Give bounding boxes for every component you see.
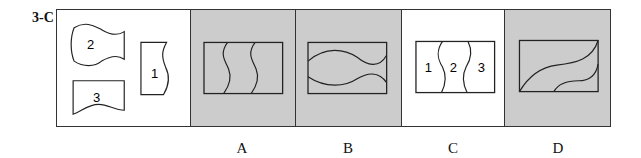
option-b-label: B [333,140,363,157]
pieces-panel: 2 3 1 [57,10,191,126]
option-b-drawing [296,10,401,126]
option-c-label: C [438,140,468,157]
option-a-panel[interactable] [191,10,297,126]
option-d-drawing [505,10,610,126]
option-d-panel[interactable] [505,10,610,126]
option-d-label: D [543,140,573,157]
puzzle-frame: 2 3 1 1 2 3 [56,9,611,127]
region-label-3: 3 [478,60,485,75]
piece-label-1: 1 [151,66,158,81]
piece-label-2: 2 [87,37,94,52]
option-a-drawing [191,10,296,126]
option-b-panel[interactable] [296,10,402,126]
option-c-panel[interactable]: 1 2 3 [402,10,506,126]
region-label-1: 1 [425,60,432,75]
region-label-2: 2 [450,60,457,75]
question-label: 3-C [32,10,54,26]
pieces-drawing [57,10,190,126]
option-a-label: A [227,140,257,157]
piece-label-3: 3 [93,90,100,105]
